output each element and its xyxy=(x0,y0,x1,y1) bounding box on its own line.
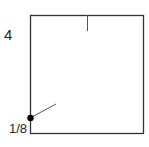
side-length-label: 4 xyxy=(4,27,12,42)
segment-from-point xyxy=(30,104,56,118)
square xyxy=(31,16,144,134)
point-dot xyxy=(27,115,33,121)
point-fraction-label: 1/8 xyxy=(9,122,27,135)
